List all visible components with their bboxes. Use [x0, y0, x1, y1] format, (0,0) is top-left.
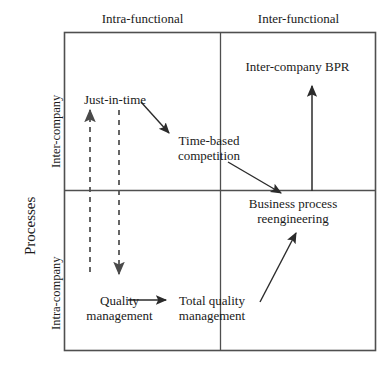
- axis-label-inter-functional: Inter-functional: [221, 11, 376, 26]
- connector-time-based-to-bpr: [228, 162, 281, 193]
- node-business-process-reengineering: Business process reengineering: [229, 196, 357, 226]
- connector-tqm-to-bpr: [260, 233, 296, 302]
- node-quality-management-line1: Quality: [100, 293, 139, 308]
- node-quality-management: Quality management: [75, 293, 164, 323]
- axis-title-processes: Processes: [22, 197, 39, 255]
- node-total-quality-management-line2: management: [179, 308, 245, 323]
- node-time-based-competition: Time-based competition: [163, 133, 255, 163]
- axis-label-intra-functional: Intra-functional: [64, 11, 221, 26]
- axis-label-inter-company: Inter-company: [49, 95, 64, 168]
- diagram-canvas: Processes Inter-company Intra-company In…: [0, 0, 390, 365]
- node-inter-company-bpr: Inter-company BPR: [229, 59, 366, 74]
- node-quality-management-line2: management: [86, 308, 152, 323]
- node-business-process-reengineering-line1: Business process: [249, 196, 337, 211]
- node-inter-company-bpr-label: Inter-company BPR: [245, 59, 349, 74]
- node-business-process-reengineering-line2: reengineering: [257, 211, 328, 226]
- node-total-quality-management: Total quality management: [166, 293, 258, 323]
- axis-label-intra-company: Intra-company: [49, 256, 64, 330]
- node-just-in-time-label: Just-in-time: [84, 92, 146, 107]
- node-time-based-competition-line1: Time-based: [179, 133, 240, 148]
- node-time-based-competition-line2: competition: [178, 148, 240, 163]
- node-just-in-time: Just-in-time: [68, 92, 162, 107]
- node-total-quality-management-line1: Total quality: [179, 293, 245, 308]
